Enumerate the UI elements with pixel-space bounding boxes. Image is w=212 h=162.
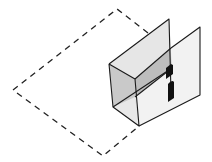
diagram-canvas bbox=[0, 0, 212, 162]
isometric-diagram bbox=[0, 0, 212, 162]
